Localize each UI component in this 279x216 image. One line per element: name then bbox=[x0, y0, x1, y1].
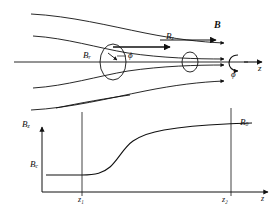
plot-xtick-z1: z₁ bbox=[78, 196, 84, 204]
plot-y-axis-subscript: z bbox=[28, 123, 30, 129]
bz-profile-curve bbox=[46, 123, 252, 175]
plot-x-axis-label: z bbox=[261, 195, 264, 203]
field-line-outer-upper bbox=[31, 14, 224, 43]
plot-high-plateau-subscript: 0 bbox=[246, 121, 249, 127]
radial-component-label: Br bbox=[83, 51, 91, 61]
physics-figure: B Bz Br ϕ ϕ z Bz Bc B0 z₁ z₂ z bbox=[0, 0, 279, 216]
plot-high-plateau-label: B0 bbox=[240, 118, 248, 128]
field-lines-group bbox=[14, 14, 248, 110]
plot-axes bbox=[42, 127, 268, 192]
radial-component-arrow bbox=[108, 53, 117, 60]
field-line-inner-lower bbox=[33, 65, 224, 88]
figure-canvas bbox=[0, 0, 279, 216]
azimuth-axis-label: ϕ bbox=[231, 70, 236, 79]
radial-component-subscript: r bbox=[89, 54, 91, 60]
plot-low-plateau-label: Bc bbox=[30, 160, 38, 170]
z-axis-label-upper: z bbox=[258, 64, 262, 73]
plot-y-axis-label: Bz bbox=[22, 120, 30, 130]
plot-xtick-z2: z₂ bbox=[222, 196, 228, 204]
azimuth-inner-label: ϕ bbox=[128, 51, 133, 60]
axial-component-label: Bz bbox=[166, 32, 174, 42]
axial-component-subscript: z bbox=[172, 35, 174, 41]
plot-low-plateau-subscript: c bbox=[36, 163, 38, 169]
field-vector-label: B bbox=[214, 20, 221, 30]
